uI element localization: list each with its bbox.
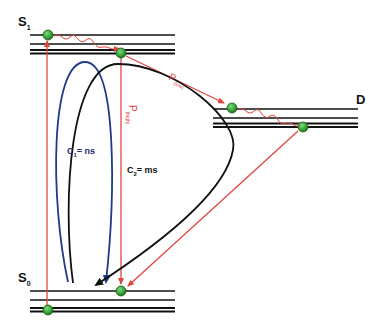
s0-state-label: S0 [18,270,31,287]
s1-state-label: S1 [18,14,31,31]
c1-cycle-loop [56,62,112,282]
c2-label: C2= ms [127,165,158,177]
s0-lower-dot [43,305,53,315]
s0-label-main: S [18,270,27,285]
d-lower-dot [298,122,308,132]
d-to-s0-arrow [128,131,298,286]
s1-upper-dot [43,30,53,40]
s1-label-sub: 1 [27,24,31,31]
d-state-label: D [356,92,365,107]
s0-label-sub: 0 [27,280,31,287]
c2-label-rest: = ms [137,165,158,175]
d-upper-dot [227,103,237,113]
p-high-label: P(high) [125,105,138,124]
p-high-label-main: P [127,105,138,112]
s1-lower-dot [116,48,126,58]
c1-label: C1= ns [67,146,95,158]
energy-level-diagram [0,0,383,330]
s1-label-main: S [18,14,27,29]
c1-label-rest: = ns [77,146,95,156]
p-high-label-sub: (high) [125,112,131,125]
d-label-main: D [356,92,365,107]
s1-relaxation-wavy-arrow [54,35,120,49]
s0-upper-dot [116,286,126,296]
